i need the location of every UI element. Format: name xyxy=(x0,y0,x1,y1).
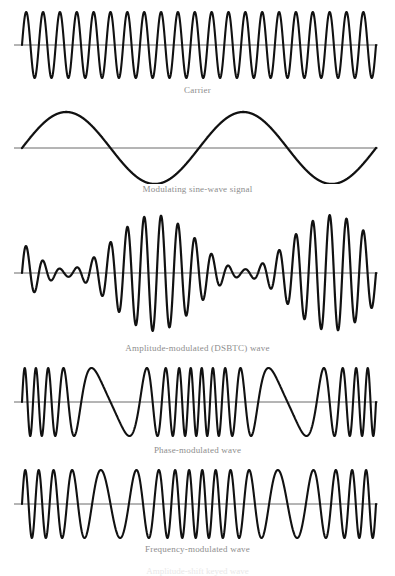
waveform-plot-frequency-modulated xyxy=(0,464,395,542)
waveform-caption-frequency-modulated: Frequency-modulated wave xyxy=(0,544,395,554)
waveform-plot-phase-modulated xyxy=(0,362,395,442)
waveform-plot-amplitude-modulated xyxy=(0,208,395,340)
waveform-panel-amplitude-modulated xyxy=(0,208,395,340)
waveform-panel-carrier xyxy=(0,4,395,82)
bottom-clipped-caption: Amplitude-shift keyed wave xyxy=(0,566,395,576)
waveform-caption-modulating-signal: Modulating sine-wave signal xyxy=(0,184,395,194)
waveform-panel-phase-modulated xyxy=(0,362,395,442)
waveform-caption-phase-modulated: Phase-modulated wave xyxy=(0,445,395,455)
waveform-panel-modulating-signal xyxy=(0,104,395,184)
waveform-panel-frequency-modulated xyxy=(0,464,395,542)
waveform-caption-carrier: Carrier xyxy=(0,85,395,95)
waveform-caption-amplitude-modulated: Amplitude-modulated (DSBTC) wave xyxy=(0,343,395,353)
waveform-plot-modulating-signal xyxy=(0,104,395,184)
waveform-plot-carrier xyxy=(0,4,395,82)
